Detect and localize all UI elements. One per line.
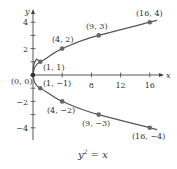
label-4-2: (4, 2)	[52, 35, 74, 44]
x-axis-arrow-icon	[159, 73, 164, 77]
y-tick-label-2: 2	[23, 45, 28, 54]
y-tick-label-m4: −4	[16, 124, 28, 133]
x-axis-label: x	[166, 71, 171, 80]
parabola-chart: 8 12 16 x 4 2 −2 −4 y (0, 0) (1, 1) (4, …	[0, 0, 177, 169]
label-1-m1: (1, −1)	[43, 79, 71, 88]
label-4-m2: (4, −2)	[47, 106, 75, 115]
label-16-m4: (16, −4)	[132, 132, 165, 141]
y-tick-label-4: 4	[23, 18, 28, 27]
point-16-m4	[148, 126, 153, 131]
point-16-4	[148, 20, 153, 25]
x-tick-label-12: 12	[116, 81, 126, 90]
label-0-0: (0, 0)	[11, 77, 33, 86]
label-1-1: (1, 1)	[43, 63, 65, 72]
y-axis-label: y	[24, 7, 30, 16]
point-9-3	[96, 33, 101, 38]
y-tick-label-m2: −2	[16, 98, 28, 107]
equation-caption: y2 = x	[77, 148, 108, 160]
point-4-m2	[60, 99, 65, 104]
point-9-m3	[96, 112, 101, 117]
label-16-4: (16, 4)	[136, 9, 163, 18]
label-9-3: (9, 3)	[86, 22, 108, 31]
point-1-1	[38, 60, 43, 65]
label-9-m3: (9, −3)	[82, 119, 110, 128]
point-4-2	[60, 46, 65, 51]
point-1-m1	[38, 86, 43, 91]
y-axis-arrow-icon	[31, 9, 35, 14]
x-tick-label-8: 8	[89, 81, 94, 90]
x-tick-label-16: 16	[145, 81, 155, 90]
